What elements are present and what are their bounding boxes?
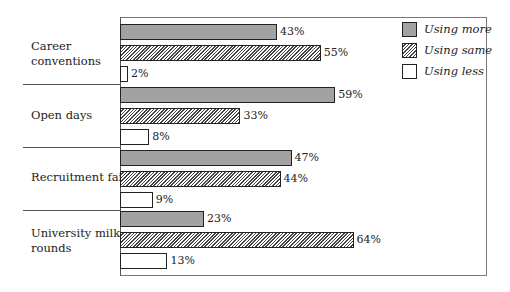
bar-using-more bbox=[120, 211, 204, 227]
bar-using-same bbox=[120, 45, 321, 61]
category-label-university-milk-rounds: University milk rounds bbox=[31, 226, 120, 256]
bar-value-label: 47% bbox=[295, 150, 319, 166]
bar-using-less bbox=[120, 129, 149, 145]
bar-using-same bbox=[120, 171, 281, 187]
bar-using-same bbox=[120, 232, 354, 248]
group-separator bbox=[23, 210, 120, 211]
bar-value-label: 2% bbox=[131, 66, 148, 82]
bar-value-label: 55% bbox=[324, 45, 348, 61]
legend-swatch-using-more bbox=[402, 22, 417, 37]
bar-using-less bbox=[120, 253, 167, 269]
category-label-line: University milk bbox=[31, 226, 120, 241]
category-label-line: Recruitment fairs bbox=[31, 170, 134, 185]
bar-value-label: 8% bbox=[152, 129, 169, 145]
category-label-line: rounds bbox=[31, 241, 120, 256]
bar-value-label: 43% bbox=[280, 24, 304, 40]
group-separator bbox=[23, 84, 120, 85]
bar-using-more bbox=[120, 150, 292, 166]
bar-using-less bbox=[120, 66, 128, 82]
group-separator bbox=[23, 147, 120, 148]
category-label-open-days: Open days bbox=[31, 108, 92, 123]
category-label-line: conventions bbox=[31, 54, 101, 69]
bar-value-label: 13% bbox=[170, 253, 194, 269]
category-label-recruitment-fairs: Recruitment fairs bbox=[31, 170, 134, 185]
bar-using-more bbox=[120, 87, 335, 103]
legend-swatch-using-same bbox=[402, 43, 417, 58]
category-label-career-conventions: Career conventions bbox=[31, 39, 101, 69]
legend-swatch-using-less bbox=[402, 64, 417, 79]
bar-value-label: 64% bbox=[357, 232, 381, 248]
legend-label-using-more: Using more bbox=[424, 22, 492, 37]
category-label-line: Career bbox=[31, 39, 101, 54]
legend-label-using-same: Using same bbox=[424, 43, 492, 58]
bar-using-less bbox=[120, 192, 153, 208]
legend-label-using-less: Using less bbox=[424, 64, 484, 79]
bar-value-label: 59% bbox=[338, 87, 362, 103]
category-label-line: Open days bbox=[31, 108, 92, 123]
bar-value-label: 9% bbox=[156, 192, 173, 208]
bar-value-label: 23% bbox=[207, 211, 231, 227]
bar-using-more bbox=[120, 24, 277, 40]
bar-using-same bbox=[120, 108, 240, 124]
bar-value-label: 44% bbox=[284, 171, 308, 187]
bar-value-label: 33% bbox=[243, 108, 267, 124]
